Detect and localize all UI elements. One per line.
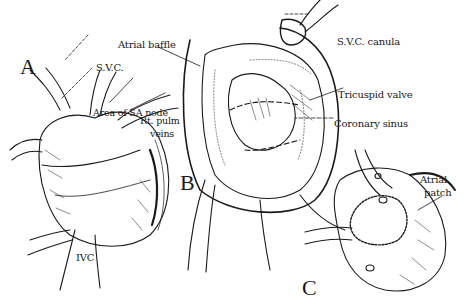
heart-b-drawing bbox=[183, 0, 345, 272]
panel-label-b: B bbox=[180, 172, 195, 194]
label-rt-pulm: Rt. pulm bbox=[140, 116, 180, 126]
label-coronary-sinus: Coronary sinus bbox=[334, 119, 408, 129]
label-svc: S.V.C. bbox=[96, 63, 124, 73]
heart-c-drawing bbox=[305, 150, 455, 291]
label-svc-canula: S.V.C. canula bbox=[337, 37, 400, 47]
label-patch: patch bbox=[424, 188, 451, 198]
label-tricuspid-valve: Tricuspid valve bbox=[338, 90, 412, 100]
panel-label-c: C bbox=[302, 277, 317, 299]
label-atrial: Atrial bbox=[420, 175, 447, 185]
panel-label-a: A bbox=[20, 56, 36, 78]
surgical-illustration: A B C S.V.C. Area of SA node Rt. pulm ve… bbox=[0, 0, 465, 305]
label-rt-pulm-veins: veins bbox=[150, 129, 174, 139]
label-atrial-baffle: Atrial baffle bbox=[118, 40, 176, 50]
label-ivc: IVC bbox=[76, 253, 94, 263]
